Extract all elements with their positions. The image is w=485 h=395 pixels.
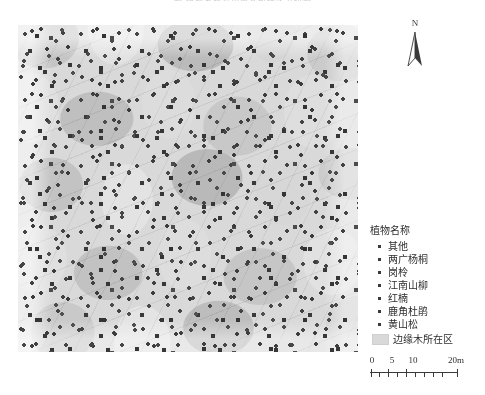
forest-plot-map[interactable] xyxy=(18,25,358,352)
legend-item-list: 其他 两广杨桐 岗柃 江南山柳 红楠 鹿角杜鹃 xyxy=(368,240,483,346)
legend-item[interactable]: 岗柃 xyxy=(368,266,483,279)
legend-dot-icon xyxy=(378,258,381,261)
legend-patch-label: 边缘木所在区 xyxy=(393,333,453,346)
legend-item[interactable]: 其他 xyxy=(368,240,483,253)
scale-tick-minor xyxy=(379,372,380,377)
legend-item-edge-zone[interactable]: 边缘木所在区 xyxy=(368,332,483,346)
scale-tick-major xyxy=(406,369,407,377)
scale-tick-label: 5 xyxy=(390,355,395,365)
scale-tick-label: 20m xyxy=(448,355,464,365)
north-arrow-icon xyxy=(400,30,430,70)
scale-bar-axis xyxy=(370,372,458,373)
scale-bar-ruler xyxy=(370,368,470,377)
legend-dot-icon xyxy=(378,284,381,287)
scale-tick-major xyxy=(388,369,389,377)
legend-dot-icon xyxy=(378,297,381,300)
legend-dot-icon xyxy=(378,310,381,313)
legend-item-label: 黄山松 xyxy=(388,318,418,331)
legend-patch-swatch-icon xyxy=(372,334,389,345)
legend: 植物名称 其他 两广杨桐 岗柃 江南山柳 红楠 xyxy=(368,222,483,346)
legend-dot-icon xyxy=(378,245,381,248)
scale-tick-minor xyxy=(415,372,416,377)
legend-item-label: 其他 xyxy=(388,240,408,253)
legend-item-label: 两广杨桐 xyxy=(388,253,428,266)
north-arrow: N xyxy=(400,18,430,70)
figure-title: 图 植物名称及边缘木所在区分布图 xyxy=(0,0,485,1)
scale-bar: 0 5 10 20m xyxy=(370,355,470,377)
legend-dot-icon xyxy=(378,271,381,274)
scale-tick-major xyxy=(457,369,458,377)
legend-item[interactable]: 黄山松 xyxy=(368,318,483,331)
scale-tick-minor xyxy=(442,372,443,377)
legend-item-label: 鹿角杜鹃 xyxy=(388,305,428,318)
legend-dot-icon xyxy=(378,323,381,326)
scale-tick-label: 10 xyxy=(409,355,418,365)
legend-item[interactable]: 江南山柳 xyxy=(368,279,483,292)
legend-item-label: 江南山柳 xyxy=(388,279,428,292)
tree-point-layer-3 xyxy=(18,25,358,352)
scale-tick-minor xyxy=(424,372,425,377)
north-arrow-label: N xyxy=(400,18,430,28)
legend-item[interactable]: 红楠 xyxy=(368,292,483,305)
scale-tick-label: 0 xyxy=(370,355,375,365)
legend-title: 植物名称 xyxy=(370,222,483,237)
figure-root: 图 植物名称及边缘木所在区分布图 N 植物名称 其他 两广杨桐 xyxy=(0,0,485,395)
legend-item[interactable]: 两广杨桐 xyxy=(368,253,483,266)
scale-bar-labels: 0 5 10 20m xyxy=(370,355,470,366)
legend-item-label: 红楠 xyxy=(388,292,408,305)
legend-item[interactable]: 鹿角杜鹃 xyxy=(368,305,483,318)
scale-tick-major xyxy=(371,369,372,377)
legend-item-label: 岗柃 xyxy=(388,266,408,279)
scale-tick-minor xyxy=(397,372,398,377)
scale-tick-minor xyxy=(433,372,434,377)
